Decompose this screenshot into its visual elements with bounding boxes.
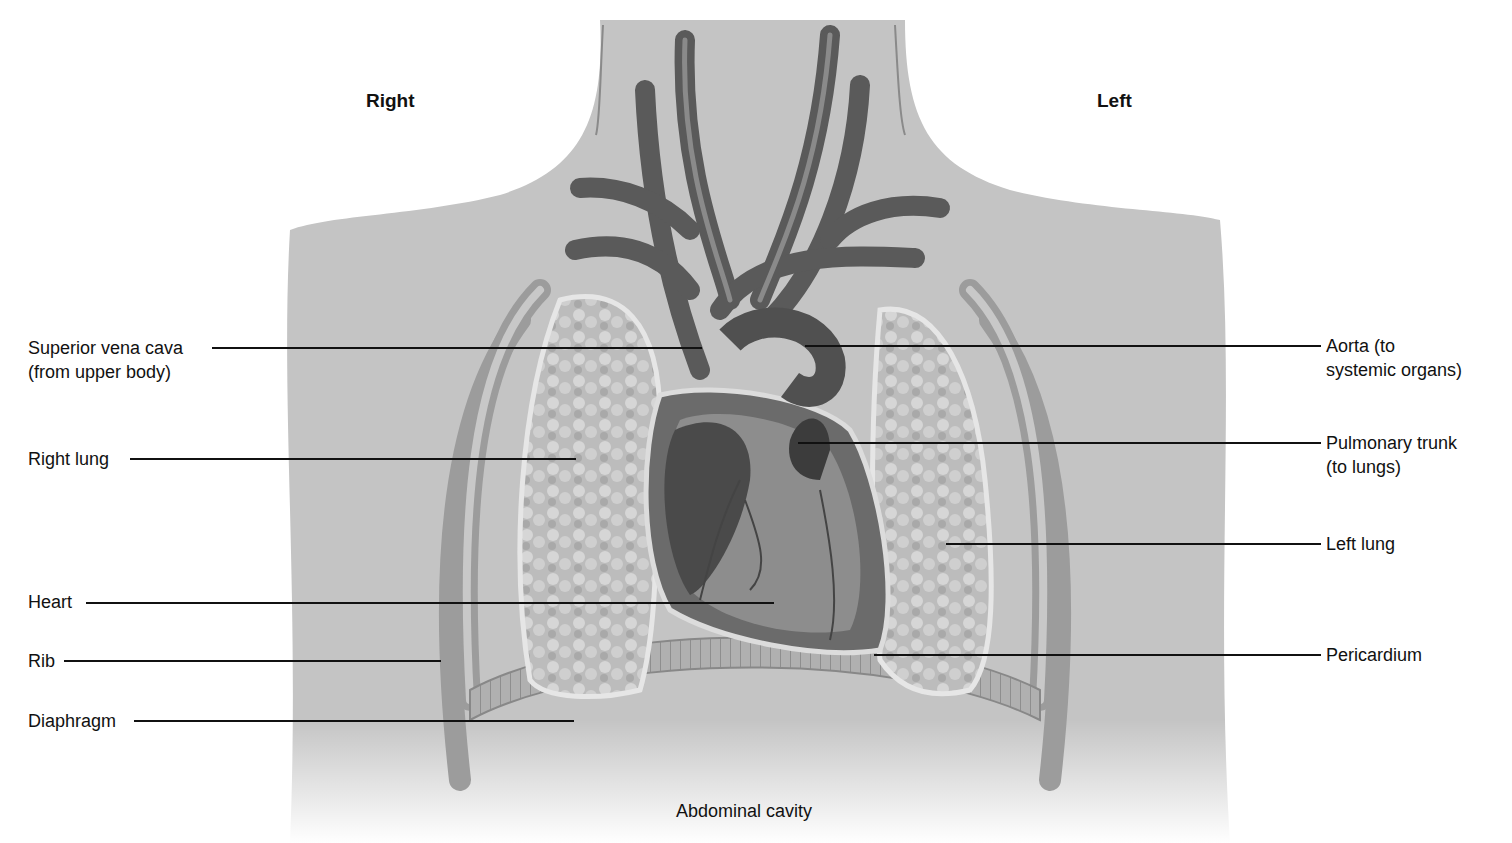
leader-left-lung xyxy=(946,543,1321,545)
leader-rib xyxy=(64,660,441,662)
label-heart: Heart xyxy=(28,590,72,614)
label-rib: Rib xyxy=(28,649,55,673)
label-superior-vena-cava: Superior vena cava (from upper body) xyxy=(28,336,183,384)
leader-superior-vena-cava xyxy=(212,347,702,349)
orientation-left-label: Left xyxy=(1097,90,1132,112)
label-diaphragm: Diaphragm xyxy=(28,709,116,733)
label-right-lung: Right lung xyxy=(28,447,109,471)
label-left-lung: Left lung xyxy=(1326,532,1395,556)
leader-heart xyxy=(86,602,774,604)
thoracic-cavity-illustration xyxy=(0,0,1512,843)
leader-pericardium xyxy=(874,654,1321,656)
label-pulmonary-trunk: Pulmonary trunk (to lungs) xyxy=(1326,431,1457,479)
label-pericardium: Pericardium xyxy=(1326,643,1422,667)
leader-diaphragm xyxy=(134,720,574,722)
leader-pulmonary-trunk xyxy=(798,442,1321,444)
label-abdominal-cavity: Abdominal cavity xyxy=(676,799,812,823)
orientation-right-label: Right xyxy=(366,90,415,112)
label-aorta: Aorta (to systemic organs) xyxy=(1326,334,1462,382)
right-lung xyxy=(520,297,660,697)
leader-right-lung xyxy=(130,458,576,460)
leader-aorta xyxy=(805,345,1321,347)
